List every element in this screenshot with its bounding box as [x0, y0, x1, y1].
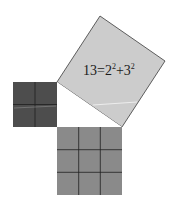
- equation-part: +3: [116, 63, 131, 78]
- medium-square: [57, 127, 122, 195]
- exponent: 2: [131, 62, 135, 71]
- equation-label: 13=22+32: [83, 62, 135, 78]
- small-square: [13, 82, 57, 127]
- equation-part: 13=2: [83, 63, 112, 78]
- pythagoras-diagram: 13=22+32: [0, 0, 179, 209]
